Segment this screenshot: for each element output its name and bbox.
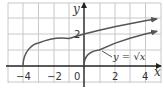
annotation-label: y = √x [112, 51, 146, 62]
y-axis-label: y [72, 2, 80, 16]
graph-plot: y x 2 −4 −2 0 2 4 y = √x [0, 0, 164, 89]
x-tick-2: 2 [112, 71, 118, 82]
x-tick-0: 0 [74, 71, 80, 82]
x-tick-4: 4 [142, 71, 148, 82]
x-axis-label: x [154, 65, 161, 79]
x-tick-neg4: −4 [16, 71, 31, 82]
x-tick-neg2: −2 [47, 71, 62, 82]
annotation-leader [102, 51, 112, 57]
y-tick-2: 2 [74, 29, 80, 40]
